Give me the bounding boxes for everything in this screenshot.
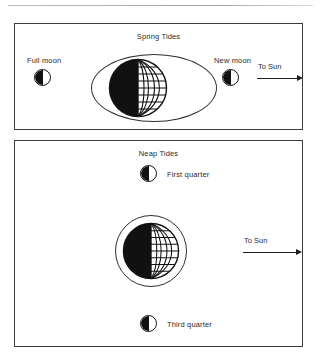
new-moon-label: New moon: [214, 56, 251, 65]
neap-tides-panel: Neap Tides First quarter: [14, 140, 303, 347]
top-rule-divider: [8, 5, 313, 6]
first-quarter-moon-icon: [140, 165, 157, 182]
earth-globe-spring: [108, 58, 168, 118]
full-moon-icon: [34, 69, 51, 86]
to-sun-arrow-spring: [257, 75, 303, 82]
spring-tides-title: Spring Tides: [15, 32, 302, 41]
full-moon-label: Full moon: [27, 56, 61, 65]
first-quarter-label: First quarter: [167, 170, 209, 179]
third-quarter-moon-icon: [140, 315, 157, 332]
new-moon-icon: [222, 69, 239, 86]
spring-tides-panel: Spring Tides Full moon: [14, 23, 303, 130]
to-sun-label-neap: To Sun: [244, 236, 267, 245]
tides-figure: Spring Tides Full moon: [0, 0, 320, 362]
neap-tides-title: Neap Tides: [15, 149, 302, 158]
earth-globe-neap: [122, 222, 180, 280]
third-quarter-label: Third quarter: [167, 320, 212, 329]
to-sun-label-spring: To Sun: [258, 62, 281, 71]
to-sun-arrow-neap: [243, 249, 303, 256]
